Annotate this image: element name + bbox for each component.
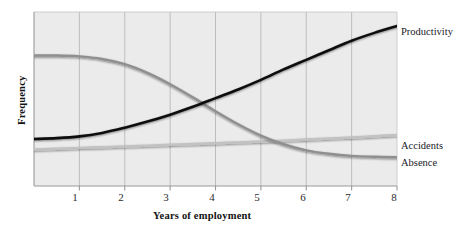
chart-figure: 1 2 3 4 5 6 7 8 Years of employment Freq… [0, 0, 473, 236]
series-label-absence: Absence [401, 158, 437, 169]
series-label-productivity: Productivity [401, 27, 453, 38]
x-tick-label-4: 4 [202, 192, 222, 203]
x-tick-label-7: 7 [338, 192, 358, 203]
x-tick-label-2: 2 [111, 192, 131, 203]
x-tick-label-6: 6 [293, 192, 313, 203]
x-tick-label-3: 3 [156, 192, 176, 203]
x-tick-label-5: 5 [247, 192, 267, 203]
y-axis-title: Frequency [17, 69, 28, 131]
x-tick-label-8: 8 [384, 192, 404, 203]
series-label-accidents: Accidents [401, 141, 443, 152]
x-axis-tickmarks [79, 186, 397, 191]
x-tick-label-1: 1 [65, 192, 85, 203]
x-axis-title: Years of employment [153, 211, 251, 222]
